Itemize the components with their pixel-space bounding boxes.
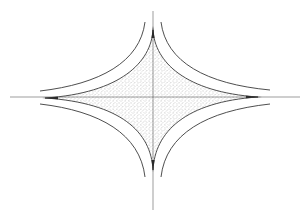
cusp-top bbox=[152, 26, 155, 38]
astroid-figure bbox=[0, 0, 308, 217]
cusp-right bbox=[246, 96, 262, 98]
cusp-bottom bbox=[152, 160, 155, 172]
astroid-shaded-overlay bbox=[45, 30, 258, 170]
